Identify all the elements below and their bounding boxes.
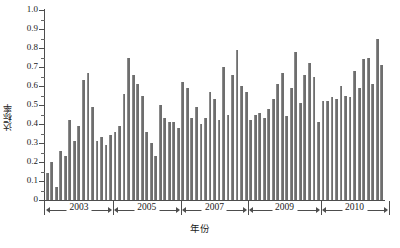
bar xyxy=(335,99,338,200)
bar xyxy=(263,118,266,200)
x-group: 2009 xyxy=(248,204,320,218)
bar xyxy=(204,118,207,200)
bar xyxy=(290,88,293,200)
bar xyxy=(258,113,261,200)
bar xyxy=(317,122,320,200)
bar xyxy=(96,141,99,200)
bar xyxy=(91,107,94,200)
bar xyxy=(303,75,306,200)
y-tick-label: 0.1 xyxy=(12,176,38,185)
bar xyxy=(159,105,162,200)
bar xyxy=(331,97,334,200)
bar xyxy=(123,94,126,200)
y-tick-label: 0.5 xyxy=(12,100,38,109)
x-group: 2010 xyxy=(321,204,389,218)
bar xyxy=(349,97,352,200)
bar xyxy=(132,75,135,200)
bar xyxy=(172,122,175,200)
bar xyxy=(73,141,76,200)
bar xyxy=(272,99,275,200)
arrow-right-icon xyxy=(108,207,112,213)
y-tick-label: 0.4 xyxy=(12,119,38,128)
bar xyxy=(68,120,71,200)
bar xyxy=(326,101,329,200)
bar xyxy=(127,58,130,201)
bar xyxy=(163,118,166,200)
bar xyxy=(55,187,58,200)
bar xyxy=(145,132,148,200)
bar xyxy=(231,75,234,200)
y-tick-label: 0.8 xyxy=(12,43,38,52)
bar xyxy=(154,156,157,200)
bar xyxy=(313,77,316,201)
x-group-label: 2007 xyxy=(202,202,227,213)
bar xyxy=(222,67,225,200)
bar xyxy=(236,50,239,200)
bar xyxy=(64,156,67,200)
bar xyxy=(371,84,374,200)
bar-chart: 达标率 00.10.20.30.40.50.60.70.80.91.0 2003… xyxy=(0,0,400,248)
y-tick-label: 0 xyxy=(12,195,38,204)
y-tick-label: 0.2 xyxy=(12,157,38,166)
x-group: 2003 xyxy=(45,204,113,218)
x-group-label: 2003 xyxy=(66,202,91,213)
bar xyxy=(380,65,383,200)
bar xyxy=(367,58,370,201)
bar xyxy=(294,52,297,200)
bar xyxy=(376,39,379,201)
bar xyxy=(281,73,284,200)
bar xyxy=(227,115,230,201)
x-group-label: 2005 xyxy=(134,202,159,213)
bar xyxy=(249,120,252,200)
x-group: 2007 xyxy=(181,204,249,218)
bar xyxy=(105,145,108,200)
x-group-label: 2010 xyxy=(342,202,367,213)
bar xyxy=(245,92,248,200)
y-tick-label: 0.7 xyxy=(12,62,38,71)
arrow-right-icon xyxy=(243,207,247,213)
bar xyxy=(100,137,103,200)
x-group: 2005 xyxy=(113,204,181,218)
arrow-right-icon xyxy=(176,207,180,213)
plot-area xyxy=(45,10,384,200)
bar xyxy=(150,143,153,200)
bar xyxy=(353,71,356,200)
x-axis-title: 年份 xyxy=(0,224,400,235)
bar xyxy=(109,135,112,200)
bar xyxy=(46,173,49,200)
bar xyxy=(276,84,279,200)
bar xyxy=(82,80,85,200)
bar xyxy=(254,115,257,201)
group-separator xyxy=(389,201,390,215)
bar xyxy=(181,82,184,200)
y-tick-label: 1.0 xyxy=(12,5,38,14)
y-tick-label: 0.6 xyxy=(12,81,38,90)
arrow-right-icon xyxy=(384,207,388,213)
bar xyxy=(195,107,198,200)
bar xyxy=(77,126,80,200)
bar xyxy=(267,109,270,200)
bar xyxy=(240,86,243,200)
bar xyxy=(200,124,203,200)
y-tick-label: 0.9 xyxy=(12,24,38,33)
bar xyxy=(299,103,302,200)
arrow-right-icon xyxy=(316,207,320,213)
bar xyxy=(114,132,117,200)
bar xyxy=(213,99,216,200)
bar xyxy=(322,101,325,200)
bar xyxy=(340,86,343,200)
bar xyxy=(209,92,212,200)
x-group-label: 2009 xyxy=(272,202,297,213)
bar xyxy=(87,73,90,200)
bar xyxy=(218,120,221,200)
bar xyxy=(168,122,171,200)
bar xyxy=(141,96,144,201)
y-tick-label: 0.3 xyxy=(12,138,38,147)
bar xyxy=(177,128,180,200)
bar xyxy=(344,96,347,201)
x-axis-groups: 20032005200720092010 xyxy=(44,201,385,221)
bar xyxy=(285,116,288,200)
bar xyxy=(190,118,193,200)
bar xyxy=(362,59,365,200)
bar xyxy=(358,88,361,200)
